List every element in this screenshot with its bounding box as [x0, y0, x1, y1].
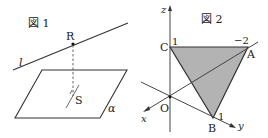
- point-A-label: A: [246, 48, 256, 61]
- origin-point: [169, 96, 172, 99]
- x-axis-label: x: [141, 113, 147, 124]
- figure-1-title: 図 1: [28, 17, 50, 30]
- tick-C-label: 1: [172, 36, 178, 47]
- right-angle-mark: [70, 90, 72, 94]
- origin-label: O: [160, 102, 169, 115]
- plane-alpha-label: α: [108, 102, 116, 115]
- tick-B-label: 1: [218, 111, 224, 122]
- point-B-label: B: [208, 122, 216, 135]
- figure-2-title: 図 2: [201, 13, 223, 26]
- line-l-label: l: [19, 56, 23, 69]
- point-S-label: S: [75, 94, 83, 107]
- point-R-label: R: [66, 30, 75, 43]
- z-axis-arrow-icon: [168, 5, 172, 11]
- tick-A-label: −2: [234, 35, 249, 46]
- x-axis-arrow-icon: [143, 106, 150, 112]
- figure-1: 図 1 l R α S: [13, 17, 128, 118]
- figure-2: 図 2 z x y O C 1 A −2 B 1: [141, 4, 258, 135]
- y-axis-label: y: [237, 120, 244, 131]
- triangle-ABC: [170, 47, 248, 118]
- diagram-canvas: 図 1 l R α S 図 2 z x y O: [0, 0, 268, 138]
- point-C-label: C: [160, 41, 168, 54]
- y-axis-arrow-icon: [229, 123, 236, 128]
- z-axis-label: z: [160, 4, 167, 15]
